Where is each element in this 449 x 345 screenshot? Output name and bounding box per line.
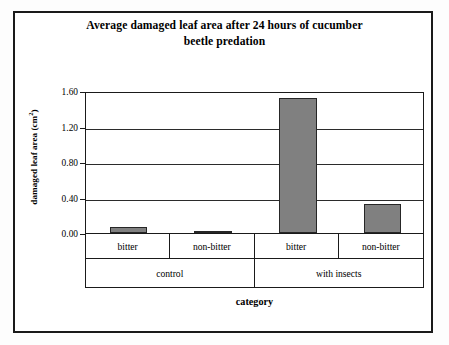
y-tick-label: 0.00 (47, 229, 78, 239)
chart-title-line-2: beetle predation (28, 34, 421, 50)
y-tick-label: 0.80 (47, 158, 78, 168)
chart-title: Average damaged leaf area after 24 hours… (28, 18, 421, 50)
y-tick-label: 1.20 (47, 123, 78, 133)
y-tick-label: 0.40 (47, 194, 78, 204)
bar (194, 231, 231, 234)
gridline (86, 200, 423, 201)
y-axis-label-superscript: 2 (27, 112, 34, 115)
y-axis-label-text: damaged leaf area (cm (29, 116, 39, 205)
category-group-cell: control (86, 259, 255, 287)
gridline (86, 164, 423, 165)
gridline (86, 129, 423, 130)
chart-title-line-1: Average damaged leaf area after 24 hours… (28, 18, 421, 34)
plot-area (85, 92, 424, 234)
category-subrow: bitternon-bitterbitternon-bitter (85, 234, 424, 259)
category-cell: bitter (86, 234, 170, 258)
y-axis-label: damaged leaf area (cm2) (29, 82, 39, 232)
bar (279, 98, 316, 233)
y-axis-label-suffix: ) (29, 109, 39, 112)
category-group-cell: with insects (255, 259, 424, 287)
bar (364, 204, 401, 233)
category-axis-table: bitternon-bitterbitternon-bitter control… (85, 234, 424, 288)
category-cell: non-bitter (170, 234, 254, 258)
x-axis-label: category (85, 296, 424, 307)
chart-figure: Average damaged leaf area after 24 hours… (0, 0, 449, 345)
category-cell: bitter (255, 234, 339, 258)
category-grouprow: controlwith insects (85, 259, 424, 288)
bar (110, 227, 147, 233)
category-cell: non-bitter (339, 234, 423, 258)
y-tick-label: 1.60 (47, 87, 78, 97)
